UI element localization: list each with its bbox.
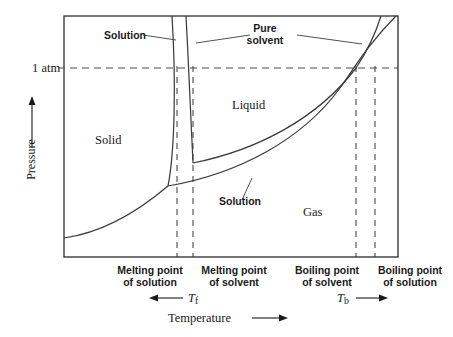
delta-tb-subscript: b: [344, 295, 349, 306]
delta-tb-symbol: Tb: [337, 291, 349, 307]
temperature-axis-title: Temperature: [168, 311, 231, 325]
callout-solution-fusion: Solution: [104, 30, 146, 42]
delta-tf-variable: T: [188, 291, 195, 305]
axis-label-melting-point-of-solution: Melting point of solution: [110, 265, 190, 289]
pure-solvent-fusion-curve: [186, 16, 193, 163]
delta-tf-subscript: f: [195, 295, 198, 306]
phase-diagram-figure: 1 atm Pressure Solid Liquid Gas Solution…: [0, 0, 453, 337]
boiling-point-of-solvent-line2: of solvent: [287, 277, 367, 289]
delta-tb-arrow: [356, 295, 388, 302]
pure-solvent-right-leader-line: [297, 35, 362, 44]
axis-label-boiling-point-of-solution: Boiling point of solution: [370, 265, 450, 289]
temperature-axis-arrow: [252, 315, 288, 322]
solution-fusion-leader-line: [143, 35, 176, 40]
region-label-liquid: Liquid: [232, 98, 265, 112]
delta-tf-symbol: Tf: [188, 291, 198, 307]
delta-tb-variable: T: [337, 291, 344, 305]
callout-pure-solvent-line2: solvent: [235, 35, 295, 47]
callout-pure-solvent-line1: Pure: [235, 23, 295, 35]
region-label-gas: Gas: [303, 205, 322, 219]
boiling-point-of-solvent-line1: Boiling point: [287, 265, 367, 277]
callout-solution-vapor: Solution: [219, 196, 261, 208]
boiling-point-of-solution-line2: of solution: [370, 277, 450, 289]
melting-point-of-solution-line2: of solution: [110, 277, 190, 289]
region-label-solid: Solid: [95, 133, 121, 147]
melting-point-of-solvent-line1: Melting point: [194, 265, 274, 277]
melting-point-of-solution-line1: Melting point: [110, 265, 190, 277]
pressure-axis-title: Pressure: [24, 120, 39, 200]
delta-tf-arrow: [149, 295, 183, 302]
axis-label-melting-point-of-solvent: Melting point of solvent: [194, 265, 274, 289]
boiling-point-of-solution-line1: Boiling point: [370, 265, 450, 277]
melting-point-of-solvent-line2: of solvent: [194, 277, 274, 289]
pressure-tick-label: 1 atm: [32, 61, 60, 75]
sublimation-curve: [64, 186, 168, 238]
callout-pure-solvent: Pure solvent: [235, 23, 295, 47]
axis-label-boiling-point-of-solvent: Boiling point of solvent: [287, 265, 367, 289]
solution-fusion-curve: [168, 16, 174, 186]
